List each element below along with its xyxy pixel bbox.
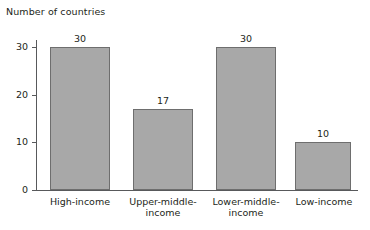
x-category-label-lower-middle-income: Lower-middle- income xyxy=(202,196,290,218)
x-category-label-upper-middle-income: Upper-middle- income xyxy=(119,196,207,218)
bar-group-high-income: 30 xyxy=(50,47,110,190)
bar-group-upper-middle-income: 17 xyxy=(133,109,193,190)
x-category-line: income xyxy=(202,207,290,218)
x-category-line: High-income xyxy=(36,196,124,207)
x-category-line: Lower-middle- xyxy=(202,196,290,207)
x-category-line: Low-income xyxy=(282,196,366,207)
bar-high-income xyxy=(50,47,110,190)
x-category-line: income xyxy=(119,207,207,218)
bar-chart: Number of countries 30 20 10 0 30 17 30 … xyxy=(0,0,370,230)
bar-value-label: 10 xyxy=(283,129,363,139)
bar-lower-middle-income xyxy=(216,47,276,190)
bar-low-income xyxy=(295,142,351,190)
bar-upper-middle-income xyxy=(133,109,193,190)
bar-value-label: 30 xyxy=(204,34,288,44)
x-category-label-low-income: Low-income xyxy=(282,196,366,207)
bar-value-label: 30 xyxy=(38,34,122,44)
bar-group-lower-middle-income: 30 xyxy=(216,47,276,190)
bar-group-low-income: 10 xyxy=(295,142,351,190)
x-category-label-high-income: High-income xyxy=(36,196,124,207)
bar-value-label: 17 xyxy=(121,96,205,106)
x-category-line: Upper-middle- xyxy=(119,196,207,207)
